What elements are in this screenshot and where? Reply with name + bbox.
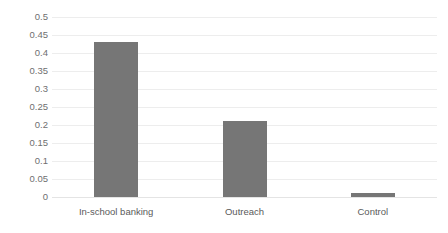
y-axis-tick-label: 0.3 <box>35 84 48 94</box>
y-axis-tick-label: 0.1 <box>35 156 48 166</box>
y-axis-tick-label: 0.05 <box>30 174 49 184</box>
x-axis-category-label: Outreach <box>180 206 308 218</box>
y-axis-tick-label: 0.2 <box>35 120 48 130</box>
bar <box>223 121 267 197</box>
x-axis-category-label: In-school banking <box>52 206 180 218</box>
gridline <box>52 197 437 198</box>
y-axis-tick-label: 0.45 <box>30 30 49 40</box>
plot-area <box>52 17 437 197</box>
y-axis-tick-label: 0.4 <box>35 48 48 58</box>
y-axis-tick-labels: 0.50.450.40.350.30.250.20.150.10.050 <box>0 0 48 233</box>
y-axis-tick-label: 0 <box>43 192 48 202</box>
x-axis-category-label: Control <box>309 206 437 218</box>
y-axis-tick-label: 0.5 <box>35 12 48 22</box>
bar-chart: 0.50.450.40.350.30.250.20.150.10.050 In-… <box>0 0 448 233</box>
y-axis-tick-label: 0.25 <box>30 102 49 112</box>
gridline <box>52 17 437 18</box>
gridline <box>52 35 437 36</box>
y-axis-tick-label: 0.35 <box>30 66 49 76</box>
bar <box>351 193 395 197</box>
y-axis-tick-label: 0.15 <box>30 138 49 148</box>
bar <box>94 42 138 197</box>
